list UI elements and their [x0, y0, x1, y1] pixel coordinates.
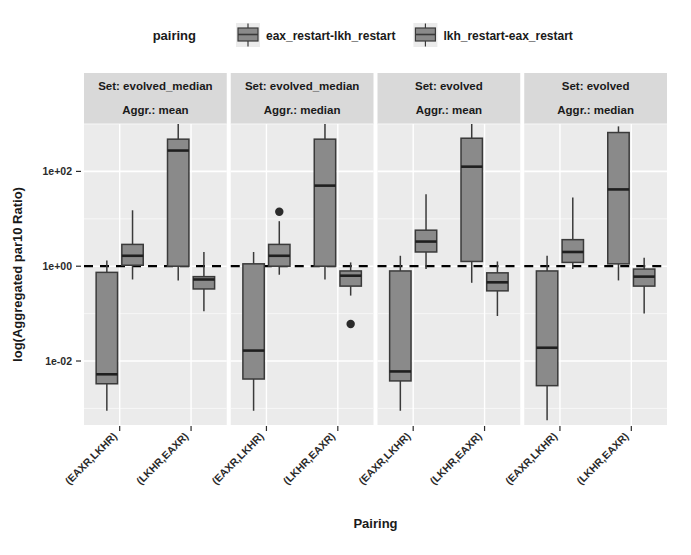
- x-tick-label: (LKHR,EAXR): [427, 430, 484, 487]
- boxplot-box[interactable]: [461, 124, 482, 283]
- legend-entry[interactable]: [413, 23, 437, 47]
- outlier-point: [346, 320, 354, 328]
- x-tick-label: (EAXR,LKHR): [356, 430, 413, 487]
- chart-canvas: pairingeax_restart-lkh_restartlkh_restar…: [0, 0, 691, 555]
- x-tick-label: (EAXR,LKHR): [503, 430, 560, 487]
- legend-title: pairing: [153, 28, 196, 43]
- x-tick-label: (EAXR,LKHR): [62, 430, 119, 487]
- y-tick-label: 1e+02: [43, 165, 73, 177]
- boxplot-box[interactable]: [314, 124, 335, 279]
- box-iqr: [340, 271, 361, 286]
- box-iqr: [390, 271, 411, 381]
- legend-entry-label: eax_restart-lkh_restart: [266, 29, 395, 43]
- facet-strip-label: Aggr.: mean: [122, 104, 188, 116]
- box-iqr: [243, 264, 264, 379]
- legend-entry-label: lkh_restart-eax_restart: [443, 29, 572, 43]
- boxplot-box[interactable]: [608, 126, 629, 280]
- x-tick-label: (LKHR,EAXR): [134, 430, 191, 487]
- outlier-point: [275, 207, 283, 215]
- y-tick-label: 1e-02: [45, 355, 72, 367]
- boxplot-box[interactable]: [168, 124, 189, 280]
- boxplot-chart: pairingeax_restart-lkh_restartlkh_restar…: [0, 0, 691, 555]
- facet-strip-label: Aggr.: median: [557, 104, 634, 116]
- box-iqr: [314, 139, 335, 266]
- x-tick-label: (LKHR,EAXR): [280, 430, 337, 487]
- facet-strip-label: Set: evolved: [415, 80, 483, 92]
- x-tick-label: (EAXR,LKHR): [209, 430, 266, 487]
- y-tick-label: 1e+00: [43, 260, 73, 272]
- facet-strip-label: Set: evolved: [562, 80, 630, 92]
- x-axis-title: Pairing: [353, 516, 397, 531]
- legend-entry[interactable]: [236, 23, 260, 47]
- y-axis-title: log(Aggregated par10 Ratio): [10, 187, 25, 362]
- facet-strip-label: Aggr.: mean: [416, 104, 482, 116]
- facet-strip-label: Set: evolved_median: [98, 80, 212, 92]
- box-iqr: [168, 139, 189, 266]
- facet-strip-label: Aggr.: median: [264, 104, 341, 116]
- facet-strip-label: Set: evolved_median: [245, 80, 359, 92]
- box-iqr: [536, 271, 557, 386]
- box-iqr: [96, 272, 117, 383]
- x-tick-label: (LKHR,EAXR): [574, 430, 631, 487]
- box-iqr: [608, 133, 629, 264]
- box-iqr: [461, 138, 482, 261]
